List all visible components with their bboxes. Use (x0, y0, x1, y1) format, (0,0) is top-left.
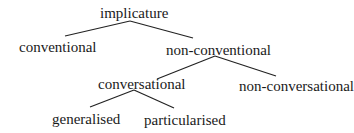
node-implicature: implicature (100, 5, 168, 21)
edge-conversational-particularised (134, 90, 174, 108)
node-generalised: generalised (52, 111, 120, 127)
node-conventional: conventional (19, 39, 96, 55)
edge-conversational-generalised (90, 90, 134, 107)
node-conversational: conversational (98, 76, 185, 92)
edge-implicature-conventional (65, 21, 130, 36)
edge-implicature-nonconventional (130, 21, 193, 38)
edge-nonconventional-nonconversational (215, 56, 276, 76)
node-non-conversational: non-conversational (239, 78, 354, 94)
node-non-conventional: non-conventional (166, 42, 271, 58)
node-particularised: particularised (144, 112, 226, 128)
